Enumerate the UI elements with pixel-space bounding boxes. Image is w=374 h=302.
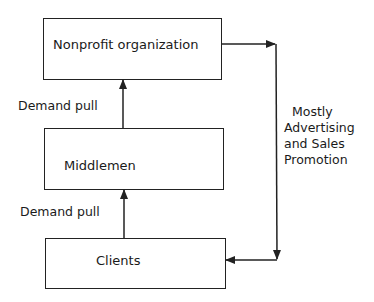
middlemen-label: Middlemen <box>64 158 136 173</box>
push-label-line-2: Advertising <box>284 120 355 136</box>
push-label-line-3: and Sales <box>284 136 355 152</box>
demand-pull-label-lower: Demand pull <box>20 204 100 219</box>
middlemen-box: Middlemen <box>44 128 224 190</box>
push-label-line-1: Mostly <box>284 104 355 120</box>
nonprofit-label: Nonprofit organization <box>53 37 198 52</box>
clients-label: Clients <box>96 253 140 268</box>
push-label-line-4: Promotion <box>284 152 355 168</box>
push-strategy-label: Mostly Advertising and Sales Promotion <box>284 104 355 168</box>
nonprofit-box: Nonprofit organization <box>43 18 222 80</box>
clients-box: Clients <box>45 238 226 289</box>
demand-pull-label-upper: Demand pull <box>18 98 98 113</box>
arrow-push-down <box>276 44 277 259</box>
